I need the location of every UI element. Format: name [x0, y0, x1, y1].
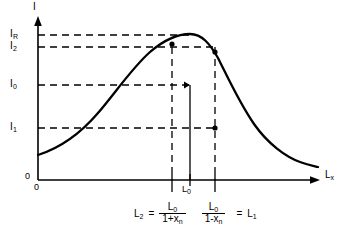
x-axis-label: Lx — [325, 170, 334, 181]
x-tick-label-L0: L0 — [182, 185, 191, 195]
y-tick-I0-sub: 0 — [13, 83, 17, 90]
fraction-2-denominator: 1-xn — [202, 213, 226, 225]
x-axis — [38, 176, 320, 184]
formula-equals-left: = — [147, 208, 155, 219]
origin-label-y: 0 — [25, 172, 30, 181]
response-curve — [38, 34, 318, 167]
formula-expression: L2 = L0 1+xn L0 1-xn = L1 — [134, 202, 257, 226]
curve-marker-L0 — [184, 82, 193, 89]
y-tick-IR-sub: R — [13, 33, 18, 40]
y-tick-label-I0: I0 — [10, 79, 17, 90]
y-tick-label-I2: I2 — [10, 41, 17, 52]
curve-marker-L2 — [169, 41, 174, 46]
y-tick-label-I1: I1 — [10, 122, 17, 133]
x-tick-L0-sub: 0 — [187, 188, 191, 195]
formula-lhs: L2 — [134, 208, 143, 220]
y-axis-label: I — [33, 2, 36, 12]
figure-container: I Lx IR I2 I0 I1 0 0 L0 L2 = L0 1+xn L0 … — [0, 0, 352, 241]
origin-label-x: 0 — [34, 183, 39, 192]
formula-rhs: L1 — [247, 208, 256, 220]
x-axis-label-sub: x — [331, 174, 335, 181]
fraction-2-numerator: L0 — [206, 202, 221, 213]
fraction-1-numerator: L0 — [165, 202, 180, 213]
y-tick-I2-sub: 2 — [13, 45, 17, 52]
fraction-1-denominator: 1+xn — [159, 213, 185, 225]
formula-fraction-2: L0 1-xn — [202, 202, 226, 226]
y-tick-label-IR: IR — [10, 29, 18, 40]
formula-fraction-1: L0 1+xn — [159, 202, 185, 226]
y-tick-I1-sub: 1 — [13, 126, 17, 133]
formula-equals-right: = — [235, 208, 243, 219]
